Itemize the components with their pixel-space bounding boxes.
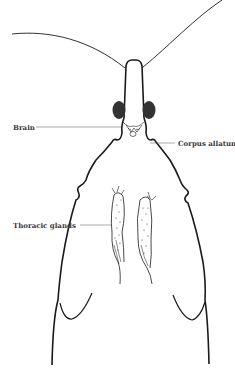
insect-outline-drawing	[0, 0, 235, 378]
right-antenna	[142, 0, 222, 68]
brain-label: Brain	[13, 124, 35, 131]
brain-structure	[123, 122, 144, 137]
thoracic-glands-label: Thoracic glands	[13, 222, 76, 229]
left-compound-eye	[113, 101, 126, 119]
left-antenna	[12, 33, 125, 68]
thoracic-gland-right	[137, 192, 156, 284]
right-compound-eye	[143, 101, 156, 119]
corpus-allatum-label: Corpus allatum	[178, 140, 235, 147]
endocrine-diagram: Brain Corpus allatum Thoracic glands	[0, 0, 235, 378]
left-coxa-curve	[60, 293, 92, 319]
right-coxa-curve	[173, 295, 205, 320]
body-outline-left	[52, 118, 124, 365]
thoracic-gland-left	[111, 186, 124, 284]
head-rostrum	[124, 60, 144, 118]
body-outline-right	[144, 118, 209, 364]
